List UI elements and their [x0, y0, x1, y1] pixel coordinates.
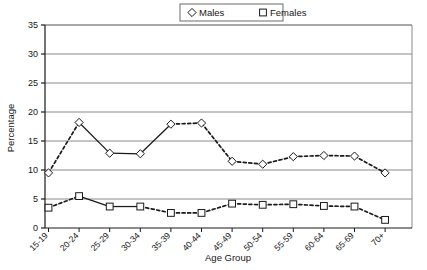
data-point-marker [106, 203, 113, 210]
x-axis-title: Age Group [205, 252, 251, 263]
data-point-marker [290, 201, 297, 208]
y-tick-label-15: 15 [28, 136, 38, 146]
data-point-marker [382, 216, 389, 223]
data-point-marker [168, 210, 175, 217]
data-point-marker [198, 210, 205, 217]
y-tick-label-20: 20 [28, 107, 38, 117]
chart-container: 05101520253035 15-1920-2425-2930-3435-39… [0, 0, 427, 270]
legend-label-females: Females [270, 7, 307, 18]
legend-marker-square-icon [260, 9, 267, 16]
data-point-marker [351, 203, 358, 210]
data-point-marker [229, 200, 236, 207]
y-axis-title: Percentage [5, 104, 16, 153]
y-tick-label-5: 5 [33, 194, 38, 204]
data-point-marker [76, 193, 83, 200]
y-tick-label-10: 10 [28, 165, 38, 175]
y-tick-label-35: 35 [28, 20, 38, 30]
percentage-by-age-group-line-chart: 05101520253035 15-1920-2425-2930-3435-39… [0, 0, 427, 270]
y-tick-label-30: 30 [28, 49, 38, 59]
y-tick-label-0: 0 [33, 223, 38, 233]
data-point-marker [45, 204, 52, 211]
data-point-marker [259, 201, 266, 208]
chart-background [0, 0, 427, 270]
data-point-marker [321, 203, 328, 210]
legend-label-males: Males [199, 7, 225, 18]
data-point-marker [137, 203, 144, 210]
y-tick-label-25: 25 [28, 78, 38, 88]
